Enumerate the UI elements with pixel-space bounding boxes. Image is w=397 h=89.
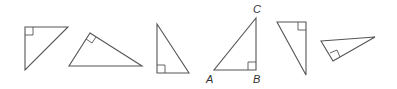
right-angle-marker (330, 50, 340, 57)
vertex-label-b: B (253, 73, 260, 85)
vertex-label-a: A (205, 73, 213, 85)
right-angle-marker (25, 27, 33, 35)
right-angle-marker (248, 62, 256, 70)
triangle-1 (25, 27, 68, 70)
triangle-2-outline (69, 33, 142, 66)
right-angle-marker (157, 65, 165, 73)
triangle-1-outline (25, 27, 68, 70)
triangle-abc: A B C (205, 3, 261, 85)
triangle-6-outline (321, 37, 375, 61)
triangle-5 (277, 22, 306, 75)
right-triangles-figure: A B C (0, 0, 397, 89)
right-angle-marker (298, 22, 306, 30)
vertex-label-c: C (253, 3, 261, 15)
triangle-2 (69, 33, 142, 66)
triangle-3-outline (157, 24, 189, 73)
triangle-3 (157, 24, 189, 73)
triangle-6 (321, 37, 375, 61)
